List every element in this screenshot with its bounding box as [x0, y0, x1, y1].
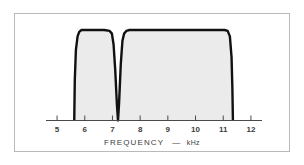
x-axis-tick-label: 5	[55, 125, 60, 134]
filter-response-chart: 56789101112 FREQUENCY — kHz	[0, 0, 304, 165]
x-axis-tick-label: 8	[138, 125, 143, 134]
response-curve-fill	[74, 30, 233, 121]
x-axis-title: FREQUENCY — kHz	[104, 138, 200, 147]
x-axis-unit-text: kHz	[187, 139, 200, 146]
x-axis-tick-label: 12	[246, 125, 255, 134]
x-axis-tick-labels: 56789101112	[55, 125, 256, 134]
x-axis-tick-label: 6	[83, 125, 88, 134]
x-axis-tick-label: 9	[166, 125, 171, 134]
x-axis-tick-label: 7	[110, 125, 115, 134]
x-axis-tick-label: 11	[219, 125, 228, 134]
x-axis-title-text: FREQUENCY	[104, 138, 164, 147]
x-axis-tick-label: 10	[191, 125, 200, 134]
figure-container: 56789101112 FREQUENCY — kHz	[0, 0, 304, 165]
